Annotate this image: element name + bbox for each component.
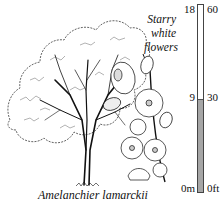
- blossom-illustration: [101, 54, 174, 182]
- height-scale-bar: [197, 4, 204, 193]
- botanical-name-caption: Amelanchier lamarckii: [38, 188, 148, 203]
- flower-description: Starry white flowers: [144, 12, 176, 54]
- scale-left-mid-label: 9: [175, 92, 195, 103]
- note-line-3: flowers: [144, 40, 176, 54]
- scale-right-bottom-label: 0ft: [207, 183, 219, 194]
- scale-right-top-label: 60: [207, 4, 218, 15]
- height-scale-fill: [198, 99, 203, 193]
- scale-left-top-label: 18: [175, 4, 195, 15]
- scale-right-mid-label: 30: [207, 92, 218, 103]
- scale-left-bottom-label: 0m: [175, 183, 195, 194]
- note-line-2: white: [144, 26, 176, 40]
- note-line-1: Starry: [144, 12, 176, 26]
